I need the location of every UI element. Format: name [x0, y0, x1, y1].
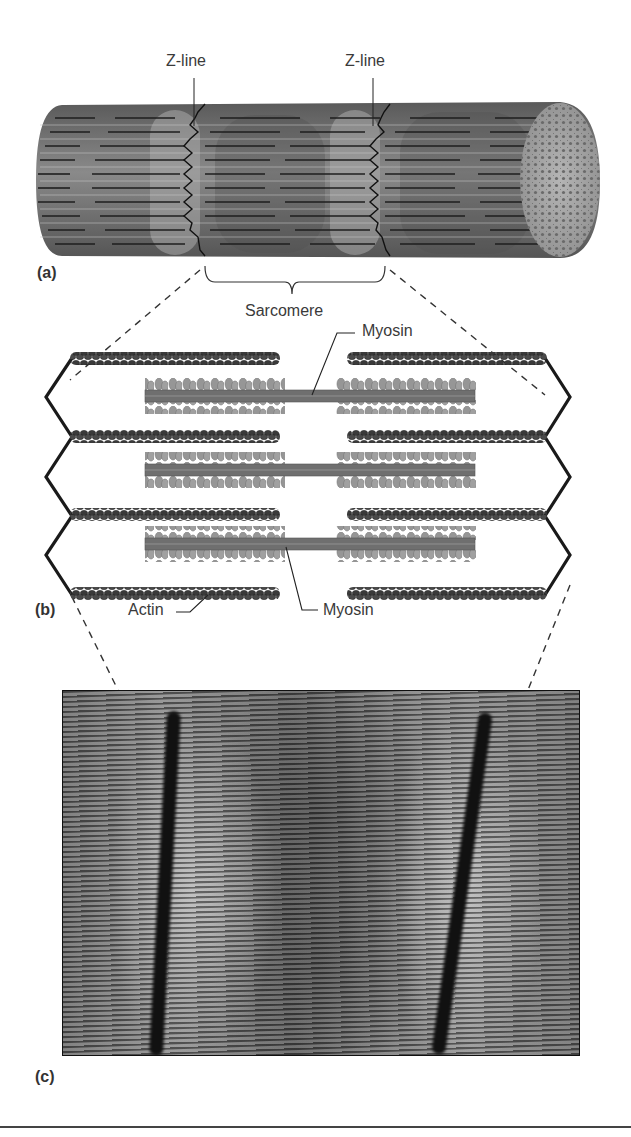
z-disc-left — [46, 358, 72, 595]
z-disc-right — [545, 358, 570, 595]
z-band-left — [149, 711, 181, 1056]
myosin-filaments — [145, 378, 476, 562]
z-band-right — [431, 712, 493, 1056]
actin-label: Actin — [128, 601, 164, 619]
myosin-label-top: Myosin — [362, 322, 413, 340]
electron-micrograph — [62, 690, 580, 1056]
panel-letter-b: (b) — [35, 601, 55, 619]
sarcomere-filament-diagram — [0, 0, 631, 640]
myosin-label-bottom: Myosin — [323, 601, 374, 619]
panel-letter-c: (c) — [35, 1068, 55, 1086]
bottom-divider — [0, 1126, 631, 1128]
